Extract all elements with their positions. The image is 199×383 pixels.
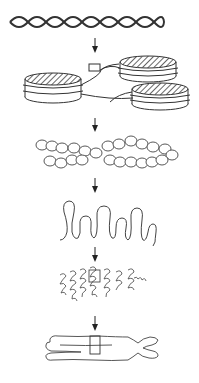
chromatin-fiber [36,136,178,168]
metaphase-chromosome [46,336,158,361]
arrow-icon [92,118,98,132]
arrow-icon [92,38,98,53]
arrow-icon [92,178,98,193]
arrow-icon [92,247,98,262]
looped-domains [60,201,156,246]
nucleosomes [23,56,190,110]
dna-double-helix [10,17,164,27]
condensed-loops [60,267,146,301]
dna-packaging-diagram [0,0,199,383]
arrow-icon [92,316,98,331]
